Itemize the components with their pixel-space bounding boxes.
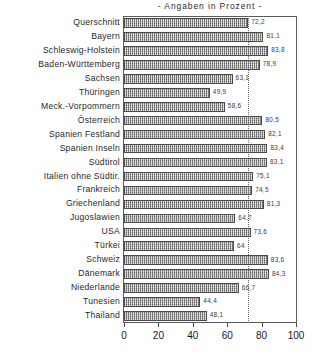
bar-row: Frankreich74,5 (0, 183, 312, 198)
bar-category-label: Schleswig-Holstein (0, 45, 120, 55)
bar-value-label: 58,6 (228, 102, 242, 109)
bar (124, 214, 235, 224)
bar-row: Tunesien44,4 (0, 295, 312, 310)
bar-row: Spanien Festland82,1 (0, 128, 312, 143)
bar (124, 130, 265, 140)
bar-category-label: Jugoslawien (0, 212, 120, 222)
bar (124, 228, 251, 238)
bar-category-label: Spanien Inseln (0, 143, 120, 153)
bar-category-label: Niederlande (0, 282, 120, 292)
bar-category-label: Baden-Württemberg (0, 59, 120, 69)
bar-category-label: Griechenland (0, 198, 120, 208)
bar-value-label: 83,8 (271, 46, 285, 53)
bar-value-label: 83,6 (271, 256, 285, 263)
bar (124, 186, 252, 196)
bar-value-label: 44,4 (203, 297, 217, 304)
bar-category-label: Spanien Festland (0, 129, 120, 139)
bar (124, 269, 269, 279)
bar-row: Türkei64 (0, 239, 312, 254)
bar (124, 74, 233, 84)
bar-value-label: 80,5 (265, 116, 279, 123)
bar-category-label: USA (0, 226, 120, 236)
bar-value-label: 83,4 (270, 144, 284, 151)
bar-rows: Querschnitt72,2Bayern81,1Schleswig-Holst… (0, 16, 312, 323)
bar (124, 116, 262, 126)
bar-row: Jugoslawien64,7 (0, 211, 312, 226)
bar-row: Österreich80,5 (0, 114, 312, 129)
bar-value-label: 64,7 (238, 214, 252, 221)
bar-chart: - Angaben in Prozent - Querschnitt72,2Ba… (0, 0, 312, 357)
bar (124, 311, 207, 321)
bar-value-label: 72,2 (251, 18, 265, 25)
bar-value-label: 73,6 (254, 228, 268, 235)
bar-category-label: Thüringen (0, 87, 120, 97)
bar-value-label: 81,1 (266, 32, 280, 39)
bar-category-label: Sachsen (0, 73, 120, 83)
bar-category-label: Südtirol (0, 157, 120, 167)
bar-category-label: Tunesien (0, 296, 120, 306)
bar-row: Querschnitt72,2 (0, 16, 312, 31)
bar-value-label: 64 (237, 242, 245, 249)
bar-category-label: Thailand (0, 310, 120, 320)
x-axis-tick-label: 100 (276, 330, 312, 341)
bar (124, 241, 234, 251)
bar-category-label: Querschnitt (0, 17, 120, 27)
bar-row: Griechenland81,3 (0, 197, 312, 212)
bar-row: Niederlande66,7 (0, 281, 312, 296)
bar (124, 18, 248, 28)
bar-row: Bayern81,1 (0, 30, 312, 45)
x-axis-tick (124, 323, 125, 327)
bar-category-label: Dänemark (0, 268, 120, 278)
bar-value-label: 49,9 (213, 88, 227, 95)
bar (124, 102, 225, 112)
bar-row: Schweiz83,6 (0, 253, 312, 268)
x-axis-tick (262, 323, 263, 327)
bar (124, 144, 267, 154)
bar-value-label: 63,1 (236, 74, 250, 81)
bar-row: Thailand48,1 (0, 309, 312, 324)
bar-category-label: Bayern (0, 31, 120, 41)
bar-row: Sachsen63,1 (0, 72, 312, 87)
bar (124, 255, 268, 265)
x-axis-tick (158, 323, 159, 327)
bar-category-label: Italien ohne Südtir. (0, 171, 120, 181)
bar-category-label: Schweiz (0, 254, 120, 264)
bar-row: Südtirol83,1 (0, 156, 312, 171)
bar (124, 158, 267, 168)
bar-row: Baden-Württemberg78,9 (0, 58, 312, 73)
bar (124, 60, 260, 70)
bar (124, 200, 264, 210)
bar-value-label: 83,1 (270, 158, 284, 165)
bar-value-label: 48,1 (210, 311, 224, 318)
bar-value-label: 74,5 (255, 186, 269, 193)
bar-row: Spanien Inseln83,4 (0, 142, 312, 157)
x-axis-tick (296, 323, 297, 327)
chart-title: - Angaben in Prozent - (123, 1, 297, 11)
bar-row: Dänemark84,3 (0, 267, 312, 282)
x-axis: 020406080100 (0, 323, 312, 357)
x-axis-tick (227, 323, 228, 327)
bar-value-label: 81,3 (267, 200, 281, 207)
bar-row: Thüringen49,9 (0, 86, 312, 101)
bar (124, 46, 268, 56)
bar-category-label: Österreich (0, 115, 120, 125)
bar (124, 32, 263, 42)
bar-value-label: 82,1 (268, 130, 282, 137)
bar-value-label: 84,3 (272, 270, 286, 277)
bar (124, 283, 239, 293)
bar-value-label: 66,7 (242, 284, 256, 291)
bar-category-label: Frankreich (0, 184, 120, 194)
bar-row: Schleswig-Holstein83,8 (0, 44, 312, 59)
bar (124, 297, 200, 307)
bar-category-label: Meck.-Vorpommern (0, 101, 120, 111)
bar-row: Italien ohne Südtir.75,1 (0, 170, 312, 185)
bar-value-label: 78,9 (263, 60, 277, 67)
bar-row: USA73,6 (0, 225, 312, 240)
bar-value-label: 75,1 (256, 172, 270, 179)
bar (124, 88, 210, 98)
bar-row: Meck.-Vorpommern58,6 (0, 100, 312, 115)
x-axis-tick (193, 323, 194, 327)
bar (124, 172, 253, 182)
bar-category-label: Türkei (0, 240, 120, 250)
